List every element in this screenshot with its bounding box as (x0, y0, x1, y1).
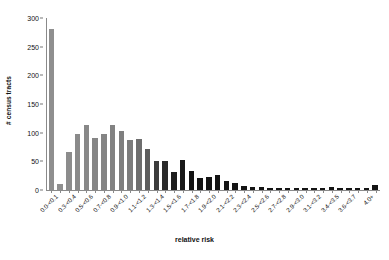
bar-slot (91, 18, 100, 190)
bar-slot (371, 18, 380, 190)
x-tick-label: 0.3-<0.4 (56, 193, 77, 214)
bar-slot (47, 18, 56, 190)
bar-slot (345, 18, 354, 190)
y-axis-ticks: 050100150200250300 (16, 18, 43, 190)
y-tick-mark (40, 190, 43, 191)
bar-slot (196, 18, 205, 190)
bar-slot (213, 18, 222, 190)
bar-slot (231, 18, 240, 190)
bar-slot (161, 18, 170, 190)
y-tick-label: 300 (27, 15, 39, 22)
bar (127, 140, 132, 190)
x-tick-label: 2.5-<2.6 (249, 193, 270, 214)
bar-slot (205, 18, 214, 190)
bar-slot (152, 18, 161, 190)
x-tick-label: 3.6-<3.7 (337, 193, 358, 214)
bar-slot (143, 18, 152, 190)
x-tick-label: 0.7-<0.8 (91, 193, 112, 214)
x-tick-label: 3.1-<3.2 (302, 193, 323, 214)
x-tick-label: 1.5-<1.6 (161, 193, 182, 214)
bar-slot (108, 18, 117, 190)
bar (224, 181, 229, 190)
x-tick-label: 2.9-<3.0 (284, 193, 305, 214)
x-tick-label: 0.0-<0.1 (39, 193, 60, 214)
x-tick-label: 3.4-<3.5 (319, 193, 340, 214)
bar-slot (362, 18, 371, 190)
y-tick-label: 200 (27, 72, 39, 79)
bar (197, 178, 202, 190)
y-tick-mark (40, 18, 43, 19)
y-tick-label: 250 (27, 43, 39, 50)
y-axis-label: # census tracts (0, 0, 16, 200)
x-tick-label: 2.7-<2.8 (267, 193, 288, 214)
x-tick-label: 4.0+ (361, 193, 374, 206)
bar-slot (73, 18, 82, 190)
bar-slot (327, 18, 336, 190)
bar-slot (240, 18, 249, 190)
y-tick-mark (40, 132, 43, 133)
bar (215, 175, 220, 190)
bar-slot (292, 18, 301, 190)
y-axis-label-text: # census tracts (5, 76, 12, 125)
plot-area (46, 18, 380, 190)
bar-slot (135, 18, 144, 190)
bar-slot (65, 18, 74, 190)
bar-series (47, 18, 380, 190)
bar-slot (336, 18, 345, 190)
y-tick-mark (40, 161, 43, 162)
bar (84, 125, 89, 190)
y-tick-label: 100 (27, 129, 39, 136)
x-tick-label: 1.3-<1.4 (144, 193, 165, 214)
bar-slot (56, 18, 65, 190)
histogram-chart: # census tracts 050100150200250300 0.0-<… (0, 0, 389, 260)
bar-slot (170, 18, 179, 190)
y-tick-label: 0 (35, 187, 39, 194)
x-tick-label: 1.1-<1.2 (126, 193, 147, 214)
bar (232, 183, 237, 190)
x-tick-label: 2.3-<2.4 (232, 193, 253, 214)
bar-slot (178, 18, 187, 190)
bar (180, 160, 185, 190)
bar (49, 29, 54, 190)
bar (171, 172, 176, 190)
bar (154, 161, 159, 190)
bar-slot (117, 18, 126, 190)
bar (145, 149, 150, 190)
bar-slot (126, 18, 135, 190)
bar-slot (310, 18, 319, 190)
bar (66, 152, 71, 190)
bar (110, 125, 115, 190)
bar-slot (82, 18, 91, 190)
bar-slot (283, 18, 292, 190)
x-tick-label: 2.1-<2.2 (214, 193, 235, 214)
bar-slot (353, 18, 362, 190)
bar-slot (275, 18, 284, 190)
x-tick-label: 0.5-<0.6 (74, 193, 95, 214)
bar-slot (248, 18, 257, 190)
bar (101, 134, 106, 190)
bar (92, 138, 97, 190)
bar-slot (187, 18, 196, 190)
y-tick-label: 50 (31, 158, 39, 165)
bar-slot (222, 18, 231, 190)
y-tick-mark (40, 104, 43, 105)
bar (75, 134, 80, 190)
bar-slot (266, 18, 275, 190)
x-tick-label: 1.7-<1.8 (179, 193, 200, 214)
x-axis-tick-labels: 0.0-<0.10.3-<0.40.5-<0.60.7-<0.80.9-<1.0… (47, 193, 387, 233)
bar (162, 161, 167, 190)
bar (119, 131, 124, 190)
y-tick-mark (40, 75, 43, 76)
x-tick-label: 0.9-<1.0 (109, 193, 130, 214)
bar-slot (100, 18, 109, 190)
bar (189, 171, 194, 190)
y-tick-label: 150 (27, 101, 39, 108)
bar (206, 177, 211, 190)
y-tick-mark (40, 46, 43, 47)
x-tick-label: 1.9-<2.0 (196, 193, 217, 214)
x-axis-label: relative risk (0, 236, 389, 243)
bar (136, 139, 141, 190)
bar-slot (257, 18, 266, 190)
bar-slot (318, 18, 327, 190)
bar-slot (301, 18, 310, 190)
